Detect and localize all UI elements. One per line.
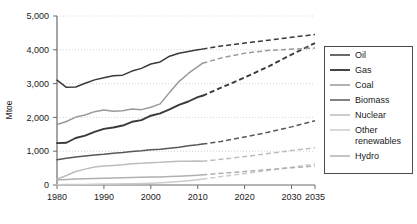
legend-item-label: Hydro [355,151,379,161]
series-line-projection [202,166,315,175]
x-tick-label: 2030 [282,192,302,202]
x-tick-label: 1990 [94,192,114,202]
series-line-projection [202,148,315,162]
x-tick-label: 1980 [47,192,67,202]
legend-item-label: renewables [355,136,402,146]
series-line-projection [202,35,315,50]
line-chart: 01,0002,0003,0004,0005,000 1980199020002… [0,0,417,224]
series-line-history [57,179,202,184]
y-tick-label: 2,000 [26,113,49,123]
x-tick-label: 2010 [188,192,208,202]
series-line-history [57,96,202,143]
x-tick-label: 2035 [305,192,325,202]
y-tick-label: 0 [44,180,49,190]
data-series-layer [57,35,315,185]
series-line-projection [202,121,315,144]
series-line-projection [202,164,315,179]
x-tick-label: 2020 [235,192,255,202]
series-line-history [57,144,202,160]
legend-item[interactable]: renewables [355,136,402,146]
series-line-history [57,175,202,180]
legend-item-label: Nuclear [355,110,386,120]
y-tick-label: 5,000 [26,11,49,21]
legend: OilGasCoalBiomassNuclearOtherrenewablesH… [325,47,413,174]
y-tick-label: 4,000 [26,45,49,55]
y-axis-ticks: 01,0002,0003,0004,0005,000 [26,11,57,190]
y-axis-title: Mtoe [4,100,14,119]
x-axis-ticks: 1980199020002010202020302035 [47,185,325,202]
legend-item-label: Coal [355,80,374,90]
y-tick-label: 3,000 [26,79,49,89]
chart-container: 01,0002,0003,0004,0005,000 1980199020002… [0,0,417,224]
legend-item-label: Oil [355,50,366,60]
legend-item-label: Other [355,125,378,135]
legend-item-label: Gas [355,65,372,75]
series-line-history [57,49,202,87]
legend-item-label: Biomass [355,95,390,105]
x-tick-label: 2000 [141,192,161,202]
y-tick-label: 1,000 [26,146,49,156]
